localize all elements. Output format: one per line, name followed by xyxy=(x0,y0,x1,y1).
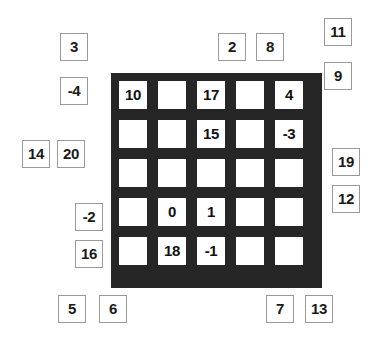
puzzle-canvas: 1017415-30118-1 328119-414201912-2165671… xyxy=(0,0,375,343)
grid-cell-empty[interactable] xyxy=(158,159,186,187)
loose-number-tile[interactable]: 5 xyxy=(58,295,86,323)
grid-cell-filled[interactable]: -1 xyxy=(197,237,225,265)
grid-cell-filled[interactable]: 4 xyxy=(275,81,303,109)
grid-cell-empty[interactable] xyxy=(119,237,147,265)
loose-number-tile[interactable]: 8 xyxy=(256,33,284,61)
grid-cell-empty[interactable] xyxy=(275,237,303,265)
grid-cell-filled[interactable]: -3 xyxy=(275,120,303,148)
grid-cell-empty[interactable] xyxy=(275,159,303,187)
grid-cell-filled[interactable]: 18 xyxy=(158,237,186,265)
grid-cell-empty[interactable] xyxy=(197,159,225,187)
loose-number-tile[interactable]: 6 xyxy=(99,295,127,323)
grid-cell-filled[interactable]: 17 xyxy=(197,81,225,109)
grid-cell-empty[interactable] xyxy=(158,81,186,109)
loose-number-tile[interactable]: 2 xyxy=(218,33,246,61)
loose-number-tile[interactable]: 11 xyxy=(324,18,352,46)
grid-cell-filled[interactable]: 0 xyxy=(158,198,186,226)
grid-cell-empty[interactable] xyxy=(236,237,264,265)
loose-number-tile[interactable]: -4 xyxy=(60,77,88,105)
grid-cell-empty[interactable] xyxy=(236,81,264,109)
grid-cell-empty[interactable] xyxy=(158,120,186,148)
loose-number-tile[interactable]: 16 xyxy=(75,240,103,268)
loose-number-tile[interactable]: 3 xyxy=(60,33,88,61)
number-grid-board[interactable]: 1017415-30118-1 xyxy=(111,73,322,288)
loose-number-tile[interactable]: 14 xyxy=(22,140,50,168)
grid-cell-filled[interactable]: 15 xyxy=(197,120,225,148)
loose-number-tile[interactable]: 20 xyxy=(57,140,85,168)
grid-cell-empty[interactable] xyxy=(119,120,147,148)
loose-number-tile[interactable]: -2 xyxy=(75,203,103,231)
loose-number-tile[interactable]: 19 xyxy=(332,148,360,176)
grid-cell-empty[interactable] xyxy=(236,159,264,187)
loose-number-tile[interactable]: 12 xyxy=(332,185,360,213)
grid-cell-filled[interactable]: 1 xyxy=(197,198,225,226)
loose-number-tile[interactable]: 7 xyxy=(266,295,294,323)
grid-cell-empty[interactable] xyxy=(236,198,264,226)
loose-number-tile[interactable]: 9 xyxy=(324,62,352,90)
grid-cell-filled[interactable]: 10 xyxy=(119,81,147,109)
grid-cell-empty[interactable] xyxy=(119,159,147,187)
grid-cell-empty[interactable] xyxy=(275,198,303,226)
grid-cell-empty[interactable] xyxy=(236,120,264,148)
loose-number-tile[interactable]: 13 xyxy=(305,295,333,323)
grid-cell-empty[interactable] xyxy=(119,198,147,226)
